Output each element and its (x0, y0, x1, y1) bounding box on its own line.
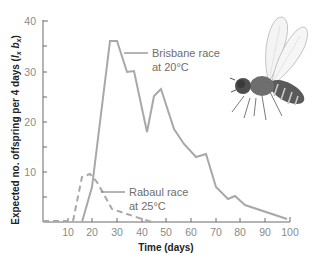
ytick-label-30: 30 (24, 66, 36, 78)
xtick-label-30: 30 (111, 226, 123, 238)
series-rabaul-line (43, 174, 152, 222)
xtick-label-20: 20 (86, 226, 98, 238)
xtick-label-70: 70 (210, 226, 222, 238)
xtick-label-60: 60 (185, 226, 197, 238)
ytick-label-20: 20 (24, 116, 36, 128)
x-ticks (68, 218, 265, 222)
ytick-label-10: 10 (24, 166, 36, 178)
xtick-label-10: 10 (62, 226, 74, 238)
rabaul-label-line1: Rabaul race (129, 186, 188, 198)
life-table-chart: 40 30 20 10 10 20 30 40 50 60 70 80 90 1… (0, 0, 320, 257)
xtick-label-90: 90 (259, 226, 271, 238)
brisbane-label-line1: Brisbane race (152, 47, 220, 59)
xtick-label-40: 40 (136, 226, 148, 238)
fruit-fly-illustration (230, 17, 308, 120)
y-ticks (43, 46, 47, 197)
ytick-label-40: 40 (24, 15, 36, 27)
x-axis-title: Time (days) (138, 242, 193, 253)
y-axis-title: Expected no. offspring per 4 days (lx bx… (10, 35, 22, 225)
xtick-label-100: 100 (281, 226, 299, 238)
xtick-label-80: 80 (234, 226, 246, 238)
rabaul-label-line2: at 25°C (129, 200, 166, 212)
brisbane-label-line2: at 20°C (152, 61, 189, 73)
xtick-label-50: 50 (160, 226, 172, 238)
